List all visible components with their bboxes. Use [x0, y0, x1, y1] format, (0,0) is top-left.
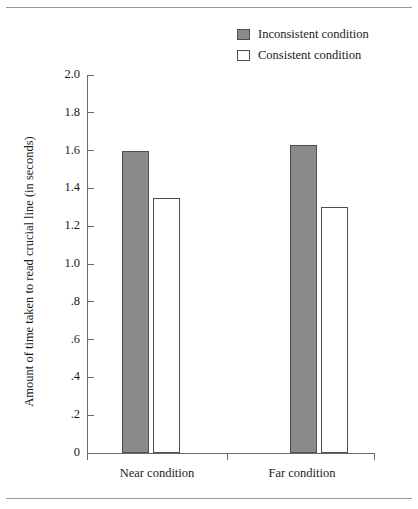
y-tick-label: .6 — [52, 333, 80, 345]
y-tick-label: 1.0 — [52, 257, 80, 269]
y-tick-label: 0 — [52, 446, 80, 458]
legend-item-inconsistent: Inconsistent condition — [237, 24, 407, 45]
plot-area — [87, 75, 374, 453]
bar-far-consistent — [321, 207, 348, 453]
filled-square-icon — [237, 29, 250, 40]
y-tick-label: .2 — [52, 408, 80, 420]
y-tick-label: 2.0 — [52, 68, 80, 80]
bar-far-inconsistent — [290, 145, 317, 453]
x-category-label: Near condition — [82, 466, 232, 480]
y-tick-label: 1.4 — [52, 181, 80, 193]
top-divider-rule — [6, 7, 412, 8]
x-tick — [374, 453, 375, 460]
chart-legend: Inconsistent condition Consistent condit… — [237, 24, 407, 66]
bottom-divider-rule — [6, 498, 412, 499]
bar-near-inconsistent — [122, 151, 149, 453]
x-category-label: Far condition — [227, 466, 377, 480]
x-tick — [87, 453, 88, 460]
legend-item-consistent: Consistent condition — [237, 45, 407, 66]
x-axis-line — [87, 453, 375, 454]
y-tick-label: 1.8 — [52, 106, 80, 118]
x-tick — [227, 453, 228, 460]
legend-label-consistent: Consistent condition — [258, 49, 361, 62]
y-tick-label: 1.6 — [52, 144, 80, 156]
figure-container: Inconsistent condition Consistent condit… — [0, 0, 418, 509]
y-tick-label: .8 — [52, 295, 80, 307]
legend-label-inconsistent: Inconsistent condition — [258, 28, 369, 41]
bar-near-consistent — [153, 198, 180, 453]
y-tick-label: 1.2 — [52, 219, 80, 231]
y-tick-label: .4 — [52, 370, 80, 382]
y-axis-title: Amount of time taken to read crucial lin… — [22, 102, 37, 442]
empty-square-icon — [237, 50, 250, 61]
